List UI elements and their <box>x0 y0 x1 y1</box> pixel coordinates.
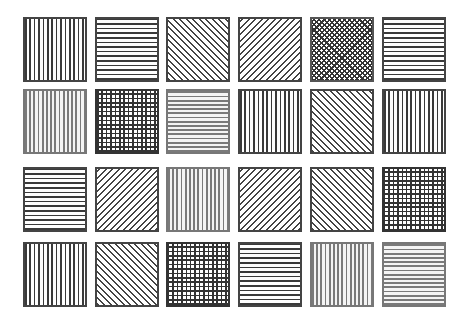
pattern-tile-diagonal-down <box>95 242 159 307</box>
pattern-tile-horizontal <box>382 17 446 82</box>
pattern-tile-vertical <box>382 89 446 154</box>
pattern-tile-horizontal <box>238 242 302 307</box>
pattern-tile-horizontal <box>23 167 87 232</box>
pattern-tile-vertical <box>166 167 230 232</box>
pattern-tile-vertical <box>310 242 374 307</box>
pattern-tile-horizontal <box>95 17 159 82</box>
pattern-tile-diagonal-down <box>166 17 230 82</box>
pattern-tile-grid <box>382 167 446 232</box>
pattern-tile-vertical <box>238 89 302 154</box>
pattern-tile-diagonal-down <box>310 89 374 154</box>
pattern-tile-vertical <box>23 242 87 307</box>
pattern-tile-diagonal-up <box>238 167 302 232</box>
pattern-tile-diagonal-up <box>95 167 159 232</box>
pattern-tile-horizontal <box>166 89 230 154</box>
pattern-grid <box>0 0 473 322</box>
pattern-tile-horizontal <box>382 242 446 307</box>
pattern-tile-vertical <box>23 17 87 82</box>
pattern-tile-vertical <box>23 89 87 154</box>
pattern-tile-grid <box>166 242 230 307</box>
pattern-tile-diagonal-down <box>310 167 374 232</box>
pattern-tile-diagonal-up <box>238 17 302 82</box>
pattern-tile-grid <box>95 89 159 154</box>
pattern-tile-crosshatch <box>310 17 374 82</box>
